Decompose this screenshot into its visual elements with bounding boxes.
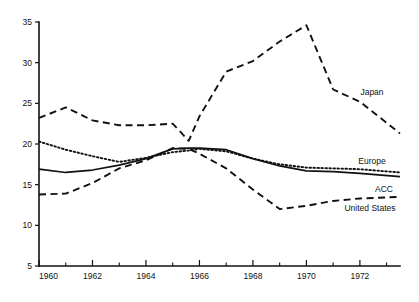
series-label-japan: Japan	[360, 87, 383, 97]
x-tick-label: 1972	[350, 271, 369, 281]
x-tick-label: 1966	[190, 271, 209, 281]
chart-canvas: 5101520253035 19601962196419661968197019…	[0, 0, 419, 302]
y-tick-label: 30	[23, 58, 33, 68]
series-label-united-states: United States	[344, 203, 395, 213]
chart-axes	[39, 22, 400, 266]
y-tick-label: 15	[23, 180, 33, 190]
x-tick-label: 1968	[243, 271, 262, 281]
x-axis-ticks	[39, 260, 387, 266]
y-axis-tick-labels: 5101520253035	[23, 17, 33, 271]
y-tick-label: 20	[23, 139, 33, 149]
x-tick-label: 1960	[39, 271, 58, 281]
y-tick-label: 25	[23, 98, 33, 108]
series-line-europe	[39, 142, 400, 173]
series-line-acc	[39, 148, 400, 176]
y-tick-label: 10	[23, 220, 33, 230]
x-axis-tick-labels: 1960196219641966196819701972	[39, 271, 370, 281]
y-tick-label: 35	[23, 17, 33, 27]
series-inline-labels: JapanEuropeACCUnited States	[344, 87, 395, 213]
series-label-acc: ACC	[375, 184, 393, 194]
x-tick-label: 1970	[297, 271, 316, 281]
x-tick-label: 1962	[83, 271, 102, 281]
chart-series-lines	[39, 25, 400, 209]
line-chart: 5101520253035 19601962196419661968197019…	[0, 0, 419, 302]
y-tick-label: 5	[27, 261, 32, 271]
series-line-japan	[39, 25, 400, 141]
series-label-europe: Europe	[358, 156, 386, 166]
x-tick-label: 1964	[137, 271, 156, 281]
